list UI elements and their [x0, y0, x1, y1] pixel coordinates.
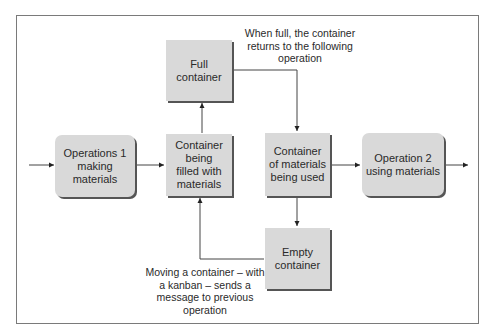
- annotation-top: When full, the container returns to the …: [230, 27, 370, 65]
- empty-container-node: Empty container: [265, 228, 330, 289]
- operation-2-label: Operation 2 using materials: [366, 152, 440, 178]
- operations-1-node: Operations 1 making materials: [55, 135, 135, 197]
- container-being-filled-node: Container being filled with materials: [166, 134, 232, 196]
- annotation-bottom: Moving a container – with a kanban – sen…: [140, 266, 270, 316]
- full-container-label: Full container: [176, 58, 221, 84]
- operation-2-node: Operation 2 using materials: [362, 133, 444, 196]
- container-being-used-node: Container of materials being used: [265, 133, 330, 196]
- full-container-node: Full container: [166, 40, 232, 101]
- empty-container-label: Empty container: [275, 246, 320, 272]
- container-being-used-label: Container of materials being used: [269, 145, 326, 184]
- operations-1-label: Operations 1 making materials: [64, 147, 127, 186]
- container-being-filled-label: Container being filled with materials: [175, 139, 223, 191]
